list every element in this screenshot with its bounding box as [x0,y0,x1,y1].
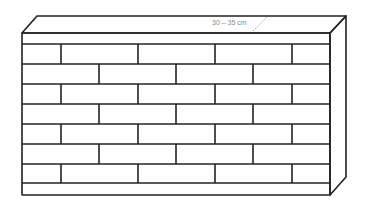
dimension-line [253,17,267,31]
brick-wall-diagram: 30 – 35 cm [0,0,367,209]
wall-side-face [330,16,346,195]
dimension-label: 30 – 35 cm [212,19,247,26]
brick-joints [61,44,292,183]
wall-top-face [22,16,346,33]
